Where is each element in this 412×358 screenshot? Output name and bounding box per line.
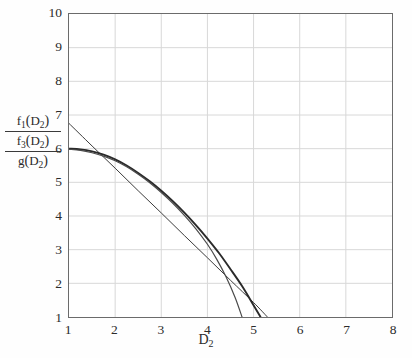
y-axis-tick-8: 8 (28, 74, 62, 88)
y-axis-tick-7: 7 (28, 108, 62, 122)
plot-area (68, 13, 393, 318)
x-axis-label-text: D2 (198, 332, 213, 347)
x-axis-label: D2 (0, 332, 412, 349)
y-axis-label-g-text: g(D2) (18, 153, 48, 168)
y-axis-tick-9: 9 (28, 40, 62, 54)
y-axis-tick-2: 2 (28, 277, 62, 291)
y-axis-tick-4: 4 (28, 209, 62, 223)
y-axis-tick-6: 6 (28, 142, 62, 156)
y-axis-tick-3: 3 (28, 243, 62, 257)
y-axis-label-row-g: g(D2) (4, 152, 62, 171)
data-curves (69, 14, 392, 317)
chart-figure: f1(D2) f3(D2) g(D2) 12345678910 12345678… (0, 0, 412, 358)
y-axis-tick-5: 5 (28, 175, 62, 189)
y-axis-tick-10: 10 (28, 6, 62, 20)
